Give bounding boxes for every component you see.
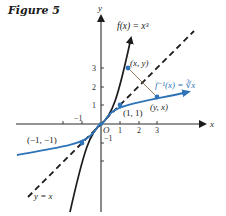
point-1-1-label: (1, 1) [123,108,143,118]
identity-label: y = x [33,191,53,201]
point-yx-label: (y, x) [150,102,168,112]
x-tick-label-3: 3 [155,126,159,135]
x-tick-label-2: 2 [137,126,141,135]
reflection-connector [128,68,157,97]
f-inverse-label: f⁻¹(x) = ∛x [155,79,195,90]
point-origin [99,122,103,126]
y-axis-label: y [97,3,102,13]
point-1-1 [118,103,123,108]
y-tick-label-1: 1 [92,101,96,110]
point-neg1-neg1-label: (−1, −1) [27,135,57,145]
x-tick-label-neg1: −1 [74,114,83,123]
axes: x y O −1 1 2 3 3 2 1 −1 [16,3,214,212]
f-label: f(x) = x³ [117,21,149,32]
y-tick-label-2: 2 [92,83,96,92]
y-tick-label-3: 3 [92,64,96,73]
x-tick-label-1: 1 [118,126,122,135]
figure-title: Figure 5 [8,4,60,17]
y-tick-label-neg1: −1 [104,134,113,143]
point-xy-label: (x, y) [130,58,148,68]
point-neg1-neg1 [80,141,85,146]
point-y-x [155,95,160,100]
chart-canvas: x y O −1 1 2 3 3 2 1 −1 f(x) [0,0,226,216]
figure-5: Figure 5 [0,0,226,216]
x-axis-label: x [209,119,214,129]
